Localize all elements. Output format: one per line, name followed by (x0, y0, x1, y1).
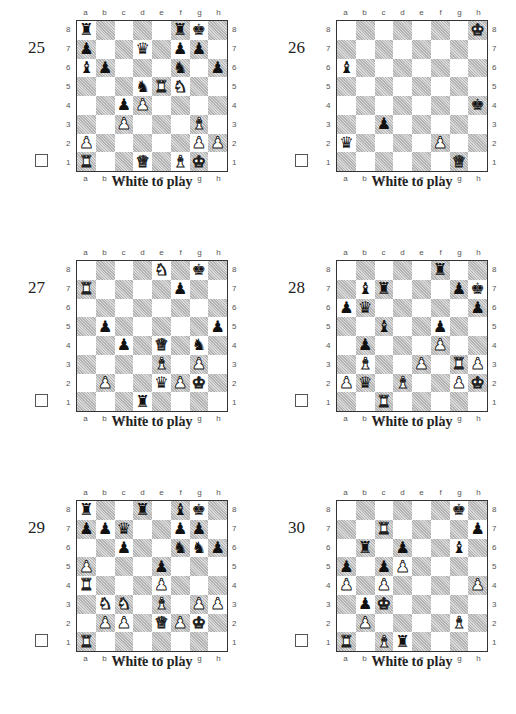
square-c2[interactable] (375, 134, 394, 153)
square-c2[interactable] (115, 374, 134, 393)
white-rook-icon[interactable]: ♜ (154, 79, 168, 95)
square-a3[interactable] (337, 355, 356, 374)
square-b6[interactable]: ♟ (96, 59, 115, 78)
white-bishop-icon[interactable]: ♝ (377, 634, 391, 650)
square-c8[interactable] (115, 261, 134, 280)
square-f7[interactable] (431, 280, 450, 299)
square-d2[interactable] (133, 374, 152, 393)
white-pawn-icon[interactable]: ♟ (79, 559, 93, 575)
solved-checkbox[interactable] (35, 394, 48, 407)
black-king-icon[interactable]: ♚ (470, 97, 484, 113)
white-pawn-icon[interactable]: ♟ (192, 596, 206, 612)
square-h2[interactable] (208, 614, 227, 633)
square-e3[interactable]: ♟ (412, 355, 431, 374)
square-a1[interactable] (337, 392, 356, 411)
white-bishop-icon[interactable]: ♝ (452, 615, 466, 631)
square-d2[interactable] (393, 614, 412, 633)
white-pawn-icon[interactable]: ♟ (433, 135, 447, 151)
square-c3[interactable]: ♟ (115, 115, 134, 134)
black-pawn-icon[interactable]: ♟ (173, 281, 187, 297)
square-g7[interactable] (190, 280, 209, 299)
square-c1[interactable] (115, 152, 134, 171)
square-d8[interactable] (133, 261, 152, 280)
square-h3[interactable] (468, 115, 487, 134)
square-e1[interactable] (412, 152, 431, 171)
white-king-icon[interactable]: ♚ (192, 375, 206, 391)
square-d3[interactable] (393, 115, 412, 134)
square-f8[interactable]: ♝ (171, 501, 190, 520)
square-d1[interactable]: ♜ (133, 392, 152, 411)
square-g2[interactable]: ♝ (450, 614, 469, 633)
square-e8[interactable]: ♞ (152, 261, 171, 280)
square-a2[interactable]: ♟ (337, 374, 356, 393)
square-g3[interactable]: ♟ (190, 355, 209, 374)
square-h1[interactable] (208, 392, 227, 411)
square-d6[interactable] (133, 299, 152, 318)
square-b8[interactable] (96, 501, 115, 520)
square-d6[interactable] (393, 59, 412, 78)
square-a8[interactable] (337, 21, 356, 40)
square-f7[interactable]: ♟ (171, 520, 190, 539)
black-rook-icon[interactable]: ♜ (358, 540, 372, 556)
black-bishop-icon[interactable]: ♝ (377, 319, 391, 335)
square-b7[interactable]: ♟ (96, 520, 115, 539)
square-g6[interactable] (190, 299, 209, 318)
square-e4[interactable]: ♟ (152, 576, 171, 595)
square-f4[interactable] (431, 96, 450, 115)
square-b7[interactable] (356, 40, 375, 59)
square-c6[interactable] (115, 299, 134, 318)
square-b2[interactable]: ♟ (356, 614, 375, 633)
solved-checkbox[interactable] (35, 154, 48, 167)
square-a4[interactable] (77, 96, 96, 115)
square-f3[interactable] (431, 355, 450, 374)
square-c7[interactable]: ♛ (115, 520, 134, 539)
square-g8[interactable] (450, 261, 469, 280)
black-bishop-icon[interactable]: ♝ (452, 540, 466, 556)
square-a8[interactable] (337, 261, 356, 280)
square-h6[interactable]: ♟ (468, 299, 487, 318)
square-d8[interactable]: ♜ (133, 501, 152, 520)
square-a7[interactable]: ♟ (77, 40, 96, 59)
square-h8[interactable] (208, 21, 227, 40)
white-king-icon[interactable]: ♚ (192, 615, 206, 631)
square-g2[interactable]: ♟ (190, 134, 209, 153)
square-e1[interactable] (412, 392, 431, 411)
square-f7[interactable] (431, 40, 450, 59)
square-h3[interactable] (208, 115, 227, 134)
square-b6[interactable]: ♜ (356, 539, 375, 558)
square-a4[interactable] (337, 336, 356, 355)
white-pawn-icon[interactable]: ♟ (79, 135, 93, 151)
black-pawn-icon[interactable]: ♟ (470, 300, 484, 316)
square-h4[interactable] (208, 576, 227, 595)
square-e6[interactable] (412, 59, 431, 78)
square-e5[interactable]: ♟ (152, 557, 171, 576)
square-b6[interactable] (356, 59, 375, 78)
square-g7[interactable]: ♟ (450, 280, 469, 299)
square-d8[interactable] (393, 261, 412, 280)
square-f7[interactable] (431, 520, 450, 539)
square-d4[interactable] (393, 336, 412, 355)
square-b5[interactable] (96, 557, 115, 576)
square-c5[interactable]: ♟ (375, 557, 394, 576)
square-c2[interactable]: ♟ (115, 614, 134, 633)
square-e2[interactable]: ♛ (152, 614, 171, 633)
square-d2[interactable] (133, 134, 152, 153)
black-pawn-icon[interactable]: ♟ (377, 116, 391, 132)
black-queen-icon[interactable]: ♛ (135, 41, 149, 57)
square-d1[interactable] (133, 632, 152, 651)
square-e7[interactable] (152, 280, 171, 299)
square-c4[interactable]: ♟ (115, 336, 134, 355)
black-queen-icon[interactable]: ♛ (117, 521, 131, 537)
square-a7[interactable]: ♜ (77, 280, 96, 299)
square-h1[interactable] (468, 152, 487, 171)
square-h6[interactable] (468, 59, 487, 78)
black-pawn-icon[interactable]: ♟ (79, 521, 93, 537)
square-f4[interactable] (171, 336, 190, 355)
square-a2[interactable]: ♛ (337, 134, 356, 153)
square-e4[interactable] (412, 576, 431, 595)
square-a6[interactable] (77, 299, 96, 318)
white-pawn-icon[interactable]: ♟ (377, 577, 391, 593)
square-b2[interactable] (356, 134, 375, 153)
square-a3[interactable] (77, 355, 96, 374)
white-queen-icon[interactable]: ♛ (452, 154, 466, 170)
